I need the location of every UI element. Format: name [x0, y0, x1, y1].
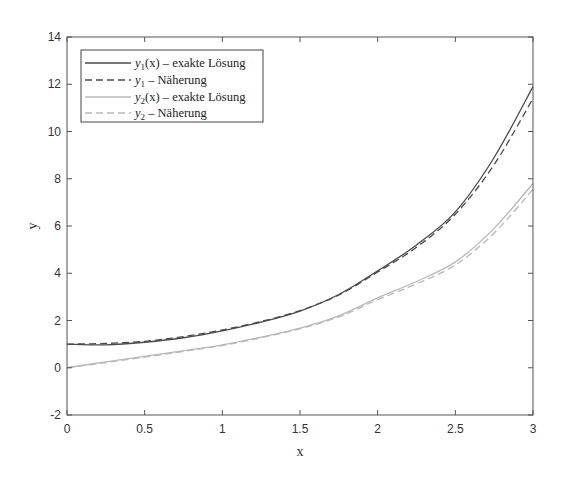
plot-lines: [67, 87, 533, 368]
y-tick-label: 4: [54, 266, 61, 280]
y-tick-label: 8: [54, 172, 61, 186]
y-tick-label: 12: [48, 77, 62, 91]
y-tick-label: 14: [48, 30, 62, 44]
legend-entry-label: y1 – Näherung: [133, 73, 208, 89]
x-tick-label: 2: [374, 422, 381, 436]
x-tick-label: 2.5: [447, 422, 464, 436]
legend-entry-label: y2(x) – exakte Lösung: [133, 90, 246, 106]
x-tick-label: 0.5: [136, 422, 153, 436]
x-axis-label: x: [297, 444, 304, 459]
line-chart: 00.511.522.53 -202468101214 x y y1(x) – …: [0, 0, 566, 477]
x-tick-label: 0: [64, 422, 71, 436]
y-axis-label: y: [25, 223, 40, 230]
y-tick-label: 10: [48, 125, 62, 139]
series-line-4: [67, 189, 533, 367]
x-tick-label: 3: [530, 422, 537, 436]
series-line-1: [67, 87, 533, 345]
legend: y1(x) – exakte Lösungy1 – Näherungy2(x) …: [81, 50, 263, 122]
series-line-3: [67, 183, 533, 367]
legend-entry-label: y2 – Näherung: [133, 106, 208, 122]
legend-entry-label: y1(x) – exakte Lösung: [133, 56, 246, 72]
y-tick-label: 6: [54, 219, 61, 233]
x-tick-label: 1: [219, 422, 226, 436]
series-line-2: [67, 98, 533, 344]
y-tick-label: 0: [54, 361, 61, 375]
y-tick-label: -2: [50, 408, 61, 422]
y-tick-label: 2: [54, 314, 61, 328]
x-tick-label: 1.5: [292, 422, 309, 436]
